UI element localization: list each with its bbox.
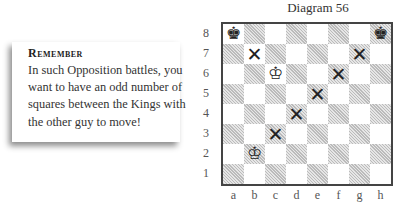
x-mark-icon: ✕ [244, 44, 265, 64]
square-d6 [286, 64, 307, 84]
file-label: g [349, 188, 370, 203]
square-e1 [307, 164, 328, 184]
square-g1 [349, 164, 370, 184]
rank-label: 3 [200, 126, 212, 141]
diagram-title: Diagram 56 [248, 0, 388, 16]
rank-label: 2 [200, 146, 212, 161]
square-d7 [286, 44, 307, 64]
square-b7: ✕ [244, 44, 265, 64]
square-h2 [370, 144, 391, 164]
square-e8 [307, 24, 328, 44]
square-g4 [349, 104, 370, 124]
square-f4 [328, 104, 349, 124]
square-c3: ✕ [265, 124, 286, 144]
square-g8 [349, 24, 370, 44]
note-body: In such Opposition battles, you want to … [28, 62, 188, 131]
square-c4 [265, 104, 286, 124]
square-g2 [349, 144, 370, 164]
square-c5 [265, 84, 286, 104]
rank-label: 1 [200, 166, 212, 181]
square-h4 [370, 104, 391, 124]
square-c1 [265, 164, 286, 184]
square-a6 [223, 64, 244, 84]
square-e6 [307, 64, 328, 84]
square-f3 [328, 124, 349, 144]
white-king-icon: ♔ [244, 144, 265, 164]
square-f7 [328, 44, 349, 64]
white-king-icon: ♔ [265, 64, 286, 84]
square-f6: ✕ [328, 64, 349, 84]
square-a2 [223, 144, 244, 164]
square-a8: ♚ [223, 24, 244, 44]
square-c6: ♔ [265, 64, 286, 84]
square-f2 [328, 144, 349, 164]
square-a4 [223, 104, 244, 124]
square-e2 [307, 144, 328, 164]
rank-label: 7 [200, 46, 212, 61]
square-d2 [286, 144, 307, 164]
square-d8 [286, 24, 307, 44]
square-f5 [328, 84, 349, 104]
x-mark-icon: ✕ [307, 84, 328, 104]
square-h5 [370, 84, 391, 104]
square-g3 [349, 124, 370, 144]
square-a5 [223, 84, 244, 104]
rank-label: 6 [200, 66, 212, 81]
square-f8 [328, 24, 349, 44]
file-label: b [244, 188, 265, 203]
square-g7: ✕ [349, 44, 370, 64]
rank-label: 8 [200, 26, 212, 41]
x-mark-icon: ✕ [349, 44, 370, 64]
square-b4 [244, 104, 265, 124]
rank-label: 5 [200, 86, 212, 101]
square-e7 [307, 44, 328, 64]
black-king-icon: ♚ [370, 24, 391, 44]
square-d1 [286, 164, 307, 184]
square-b8 [244, 24, 265, 44]
square-c2 [265, 144, 286, 164]
square-b5 [244, 84, 265, 104]
square-b1 [244, 164, 265, 184]
square-e4 [307, 104, 328, 124]
square-d3 [286, 124, 307, 144]
file-label: h [370, 188, 391, 203]
square-h3 [370, 124, 391, 144]
square-h7 [370, 44, 391, 64]
file-label: c [265, 188, 286, 203]
square-b2: ♔ [244, 144, 265, 164]
note-title: Remember [28, 46, 83, 61]
file-label: e [307, 188, 328, 203]
chess-board: ♚♚✕✕♔✕✕✕✕♔ [221, 22, 393, 186]
square-e5: ✕ [307, 84, 328, 104]
square-g5 [349, 84, 370, 104]
file-label: d [286, 188, 307, 203]
file-label: f [328, 188, 349, 203]
file-label: a [223, 188, 244, 203]
square-g6 [349, 64, 370, 84]
x-mark-icon: ✕ [328, 64, 349, 84]
square-c7 [265, 44, 286, 64]
rank-label: 4 [200, 106, 212, 121]
remember-note: Remember In such Opposition battles, you… [12, 42, 180, 142]
square-a3 [223, 124, 244, 144]
square-d5 [286, 84, 307, 104]
x-mark-icon: ✕ [265, 124, 286, 144]
square-f1 [328, 164, 349, 184]
x-mark-icon: ✕ [286, 104, 307, 124]
square-d4: ✕ [286, 104, 307, 124]
square-e3 [307, 124, 328, 144]
square-h6 [370, 64, 391, 84]
square-a1 [223, 164, 244, 184]
square-h8: ♚ [370, 24, 391, 44]
square-a7 [223, 44, 244, 64]
square-b3 [244, 124, 265, 144]
square-h1 [370, 164, 391, 184]
square-c8 [265, 24, 286, 44]
square-b6 [244, 64, 265, 84]
black-king-icon: ♚ [223, 24, 244, 44]
